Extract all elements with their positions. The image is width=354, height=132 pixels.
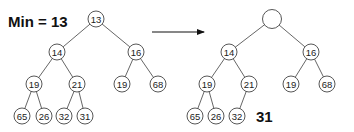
node-label: 31	[80, 111, 91, 122]
node-label: 26	[39, 111, 50, 122]
heap-node: 65	[187, 108, 203, 124]
heap-node: 14	[49, 44, 65, 60]
heap-node: 19	[26, 76, 42, 92]
node-label: 32	[232, 111, 243, 122]
heap-node: 16	[128, 44, 144, 60]
heap-node: 19	[114, 76, 130, 92]
heap-node: 21	[69, 76, 85, 92]
heap-node: 26	[208, 108, 224, 124]
empty-root-node	[263, 10, 282, 29]
node-label: 19	[117, 79, 128, 90]
node-label: 16	[306, 47, 317, 58]
removed-last-element: 31	[256, 108, 273, 125]
node-label: 21	[244, 79, 255, 90]
heap-node: 32	[56, 108, 72, 124]
heap-node: 21	[241, 76, 257, 92]
node-label: 14	[224, 47, 235, 58]
node-label: 19	[202, 79, 213, 90]
heap-delete-min-diagram: Min = 13 1314161921196865263231 14161921…	[0, 0, 354, 132]
heap-node: 31	[77, 108, 93, 124]
heap-node: 13	[88, 11, 104, 27]
heap-node: 68	[319, 76, 335, 92]
node-label: 65	[17, 111, 28, 122]
node-label: 68	[322, 79, 333, 90]
heap-node: 16	[303, 44, 319, 60]
node-label: 19	[29, 79, 40, 90]
node-label: 13	[91, 14, 102, 25]
heap-node: 19	[199, 76, 215, 92]
node-label: 65	[190, 111, 201, 122]
heap-node: 26	[36, 108, 52, 124]
min-label: Min = 13	[8, 13, 68, 30]
node-label: 19	[286, 79, 297, 90]
node-label: 14	[52, 47, 63, 58]
heap-node: 65	[14, 108, 30, 124]
node-label: 21	[72, 79, 83, 90]
node-label: 26	[211, 111, 222, 122]
node-label: 32	[59, 111, 70, 122]
node-label: 16	[131, 47, 142, 58]
heap-node: 19	[283, 76, 299, 92]
heap-node: 68	[150, 76, 166, 92]
heap-node: 32	[229, 108, 245, 124]
heap-node: 14	[221, 44, 237, 60]
node-label: 68	[153, 79, 164, 90]
